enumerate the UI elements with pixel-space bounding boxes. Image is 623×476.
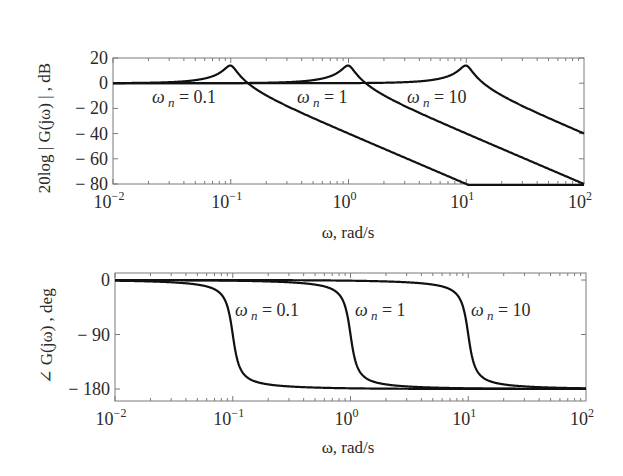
y-tick-label: − 40 [75, 124, 108, 144]
bode-figure: 200− 20− 40− 60− 80 10−210−1100101102 ω … [0, 0, 623, 476]
magnitude-plot-frame [113, 58, 584, 184]
x-tick-label: 102 [570, 406, 594, 429]
y-tick-label: 0 [101, 270, 110, 290]
y-tick-label: − 180 [68, 379, 110, 399]
magnitude-plot-ticks [113, 58, 584, 184]
series-annotation: ω n = 1 [355, 300, 406, 323]
magnitude-curves [113, 66, 584, 185]
phase-x-tick-labels: 10−210−1100101102 [96, 406, 594, 429]
phase-curves [115, 280, 586, 389]
series-annotation: ω n = 10 [407, 87, 467, 110]
series-annotation: ω n = 0.1 [235, 300, 299, 323]
y-tick-label: − 80 [75, 174, 108, 194]
series-annotation: ω n = 0.1 [152, 87, 216, 110]
phase-y-axis-label: ∠ G(jω) , deg [37, 288, 56, 384]
magnitude-plot: 200− 20− 40− 60− 80 10−210−1100101102 ω … [35, 48, 592, 242]
magnitude-y-axis-label: 20log | G(jω) | , dB [35, 63, 54, 193]
magnitude-annotations: ω n = 0.1ω n = 1ω n = 10 [152, 87, 467, 110]
x-tick-label: 100 [333, 189, 357, 212]
y-tick-label: 20 [90, 48, 108, 68]
phase-x-axis-label: ω, rad/s [322, 438, 375, 457]
x-tick-label: 100 [335, 406, 359, 429]
curve-1 [115, 280, 586, 389]
x-tick-label: 10−1 [213, 406, 244, 429]
series-annotation: ω n = 10 [471, 300, 531, 323]
y-tick-label: − 20 [75, 98, 108, 118]
phase-annotations: ω n = 0.1ω n = 1ω n = 10 [235, 300, 531, 323]
magnitude-x-tick-labels: 10−210−1100101102 [94, 189, 592, 212]
x-tick-label: 10−1 [211, 189, 242, 212]
y-tick-label: − 90 [77, 325, 110, 345]
magnitude-y-tick-labels: 200− 20− 40− 60− 80 [75, 48, 108, 194]
phase-y-tick-labels: 0− 90− 180 [68, 270, 110, 399]
phase-plot: 0− 90− 180 10−210−1100101102 ω n = 0.1ω … [37, 270, 594, 457]
y-tick-label: 0 [99, 73, 108, 93]
x-tick-label: 10−2 [94, 189, 125, 212]
y-tick-label: − 60 [75, 149, 108, 169]
plot-frame [113, 58, 584, 184]
x-tick-label: 101 [452, 406, 476, 429]
magnitude-x-axis-label: ω, rad/s [322, 223, 375, 242]
series-annotation: ω n = 1 [297, 87, 348, 110]
x-tick-label: 101 [450, 189, 474, 212]
x-tick-label: 10−2 [96, 406, 127, 429]
x-tick-label: 102 [568, 189, 592, 212]
